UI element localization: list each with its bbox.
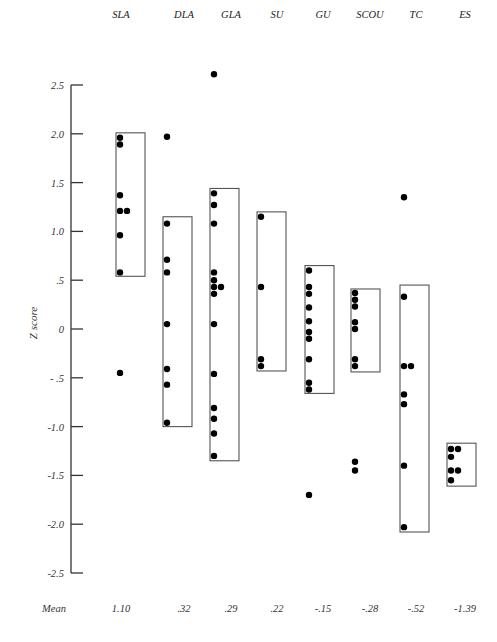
data-point: [306, 329, 312, 335]
y-tick-label: 0: [59, 324, 65, 335]
mean-value-sla: 1.10: [112, 603, 131, 614]
group-label-scou: SCOU: [356, 9, 385, 20]
y-tick-label: -2.0: [47, 519, 64, 530]
data-point: [352, 363, 358, 369]
data-point: [448, 446, 454, 452]
data-point: [164, 134, 170, 140]
data-point: [211, 269, 217, 275]
data-point: [306, 386, 312, 392]
data-point: [117, 141, 123, 147]
data-point: [117, 192, 123, 198]
data-point: [211, 277, 217, 283]
y-tick-label: .5: [56, 275, 64, 286]
data-point: [306, 379, 312, 385]
data-point: [448, 467, 454, 473]
data-point: [211, 190, 217, 196]
data-point: [211, 71, 217, 77]
data-point: [117, 135, 123, 141]
data-point: [306, 356, 312, 362]
group-boxes: [116, 133, 476, 532]
y-axis-title: Z score: [27, 307, 39, 339]
y-tick-label: -1.0: [47, 422, 64, 433]
group-label-dla: DLA: [173, 9, 194, 20]
group-label-su: SU: [271, 9, 285, 20]
data-point: [306, 284, 312, 290]
group-label-es: ES: [458, 9, 471, 20]
data-point: [401, 363, 407, 369]
mean-row-label: Mean: [41, 603, 66, 614]
data-point: [164, 321, 170, 327]
mean-value-gla: .29: [224, 603, 238, 614]
data-point: [117, 370, 123, 376]
data-point: [258, 214, 264, 220]
data-point: [352, 356, 358, 362]
group-label-sla: SLA: [112, 9, 130, 20]
range-box-su: [257, 212, 286, 371]
y-axis: 2.52.01.51.0.50- .5-1.0-1.5-2.0-2.5: [47, 80, 83, 579]
mean-value-tc: -.52: [408, 603, 425, 614]
data-point: [164, 269, 170, 275]
y-tick-label: - .5: [50, 373, 64, 384]
y-tick-label: -2.5: [47, 568, 64, 579]
data-point: [352, 326, 358, 332]
range-box-tc: [400, 285, 429, 532]
data-point: [211, 291, 217, 297]
data-point: [211, 453, 217, 459]
data-point: [306, 318, 312, 324]
data-point: [352, 319, 358, 325]
mean-value-dla: .32: [177, 603, 191, 614]
data-points: [117, 71, 461, 530]
group-labels: SLADLAGLASUGUSCOUTCES: [112, 9, 471, 20]
data-point: [211, 220, 217, 226]
mean-row: Mean1.10.32.29.22-.15-.28-.52-1.39: [41, 603, 477, 614]
mean-value-scou: -.28: [362, 603, 379, 614]
y-tick-label: 1.5: [51, 178, 64, 189]
data-point: [164, 419, 170, 425]
data-point: [258, 363, 264, 369]
group-label-tc: TC: [410, 9, 424, 20]
data-point: [306, 291, 312, 297]
data-point: [448, 477, 454, 483]
data-point: [117, 269, 123, 275]
data-point: [352, 290, 358, 296]
data-point: [455, 467, 461, 473]
data-point: [408, 363, 414, 369]
data-point: [211, 202, 217, 208]
data-point: [306, 304, 312, 310]
range-box-sla: [116, 133, 145, 276]
data-point: [401, 194, 407, 200]
data-point: [401, 391, 407, 397]
y-tick-label: 1.0: [51, 226, 65, 237]
group-label-gu: GU: [315, 9, 332, 20]
data-point: [401, 462, 407, 468]
y-tick-label: -1.5: [47, 470, 64, 481]
data-point: [352, 303, 358, 309]
data-point: [401, 294, 407, 300]
data-point: [401, 401, 407, 407]
data-point: [306, 336, 312, 342]
data-point: [211, 430, 217, 436]
data-point: [352, 459, 358, 465]
mean-value-gu: -.15: [315, 603, 332, 614]
z-score-chart: 2.52.01.51.0.50- .5-1.0-1.5-2.0-2.5 SLAD…: [0, 0, 497, 642]
data-point: [164, 381, 170, 387]
data-point: [117, 232, 123, 238]
data-point: [306, 492, 312, 498]
data-point: [258, 356, 264, 362]
data-point: [164, 257, 170, 263]
mean-value-es: -1.39: [454, 603, 477, 614]
mean-value-su: .22: [270, 603, 284, 614]
data-point: [306, 267, 312, 273]
data-point: [211, 405, 217, 411]
data-point: [455, 446, 461, 452]
data-point: [401, 524, 407, 530]
data-point: [218, 284, 224, 290]
group-label-gla: GLA: [221, 9, 241, 20]
data-point: [352, 467, 358, 473]
data-point: [164, 220, 170, 226]
data-point: [352, 297, 358, 303]
data-point: [258, 284, 264, 290]
data-point: [117, 208, 123, 214]
data-point: [211, 284, 217, 290]
y-tick-label: 2.0: [51, 129, 65, 140]
